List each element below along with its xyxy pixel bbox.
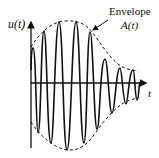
signal-waveform — [31, 22, 140, 150]
x-axis-label: t — [148, 88, 151, 99]
envelope-function-label: A(t) — [121, 20, 138, 31]
y-axis-label: u(t) — [8, 18, 25, 30]
annotation-arrow — [93, 20, 108, 30]
envelope-annotation-label: Envelope — [109, 6, 151, 17]
